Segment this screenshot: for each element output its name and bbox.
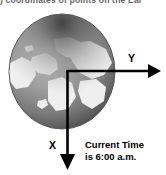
x-axis-label: X (49, 139, 56, 151)
arrow-right-icon (148, 64, 161, 78)
arrow-down-icon (60, 154, 75, 170)
earth-coordinate-axes-figure: ) coordinates of points on the Ear (0, 0, 166, 175)
current-time-line-1: Current Time (85, 139, 144, 151)
current-time-annotation: Current Time is 6:00 a.m. (85, 139, 144, 163)
y-axis-label: Y (128, 52, 135, 64)
current-time-line-2: is 6:00 a.m. (85, 151, 144, 163)
